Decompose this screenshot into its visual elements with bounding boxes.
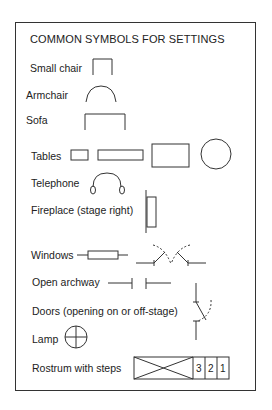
sofa-icon (85, 114, 125, 130)
telephone-icon (91, 173, 125, 194)
archway-icon (108, 278, 171, 289)
armchair-icon (86, 86, 116, 102)
rostrum-icon (134, 357, 229, 379)
step-1: 1 (220, 363, 226, 374)
step-2: 2 (208, 363, 214, 374)
window-icon (77, 251, 128, 259)
symbols-canvas: 3 2 1 (0, 0, 272, 410)
tables-icon (71, 139, 231, 169)
open-window-icon (136, 245, 206, 266)
fireplace-icon (146, 190, 156, 233)
door-icon (193, 283, 211, 340)
step-3: 3 (196, 363, 202, 374)
lamp-icon (65, 326, 87, 348)
small-chair-icon (93, 59, 112, 75)
